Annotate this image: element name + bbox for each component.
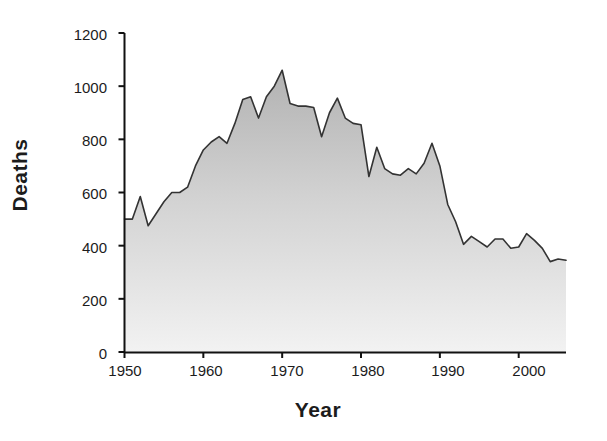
area-series-fill xyxy=(125,70,567,352)
y-tick-label-600: 600 xyxy=(49,185,107,202)
x-tick-label-1950: 1950 xyxy=(95,362,155,379)
x-tick-label-2000: 2000 xyxy=(499,362,559,379)
x-tick-label-1960: 1960 xyxy=(176,362,236,379)
y-tick-label-400: 400 xyxy=(49,239,107,256)
x-tick-label-1980: 1980 xyxy=(338,362,398,379)
y-tick-label-200: 200 xyxy=(49,292,107,309)
y-tick-label-800: 800 xyxy=(49,132,107,149)
x-axis-title: Year xyxy=(243,398,393,422)
y-tick-label-1000: 1000 xyxy=(49,79,107,96)
y-tick-label-0: 0 xyxy=(49,345,107,362)
y-axis-title: Deaths xyxy=(8,115,32,235)
x-tick-label-1970: 1970 xyxy=(257,362,317,379)
deaths-by-year-area-chart: Deaths Year 1200 1000 800 600 400 200 0 … xyxy=(0,0,607,441)
x-tick-label-1990: 1990 xyxy=(418,362,478,379)
y-tick-label-1200: 1200 xyxy=(49,26,107,43)
